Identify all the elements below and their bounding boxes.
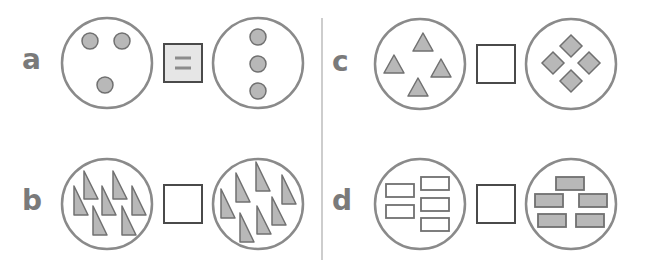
problem-d bbox=[375, 159, 616, 249]
problem-b bbox=[62, 159, 303, 249]
answer-box-a[interactable] bbox=[164, 44, 202, 82]
set-circle-left bbox=[62, 18, 152, 108]
problem-c bbox=[375, 19, 616, 109]
answer-box-c[interactable] bbox=[477, 45, 515, 83]
problem-a bbox=[62, 18, 303, 108]
set-circle-right bbox=[526, 19, 616, 109]
comparison-diagram bbox=[0, 0, 649, 277]
set-circle-left bbox=[375, 159, 465, 249]
answer-box-b[interactable] bbox=[164, 185, 202, 223]
dots-right bbox=[250, 29, 266, 99]
answer-box-d[interactable] bbox=[477, 185, 515, 223]
